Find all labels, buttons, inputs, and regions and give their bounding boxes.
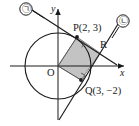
y-axis-label: y [50,3,56,14]
line-1-badge-label: ㉠ [22,4,31,14]
callout-leader-line-1 [33,11,44,18]
origin-label: O [47,67,55,78]
figure-canvas: ㉠ ㉡ y x O P(2, 3) Q(3, −2) R [0,0,139,126]
line-1-badge: ㉠ [20,3,32,15]
point-label-p: P(2, 3) [73,22,102,34]
point-dot-q [79,78,83,82]
y-axis-arrowhead [55,9,61,15]
shaded-quadrilateral-OPRQ [58,37,100,80]
point-label-r: R [100,39,107,50]
x-axis-label: x [119,67,125,78]
point-dot-p [75,35,79,39]
line-2-badge-label: ㉡ [119,16,128,26]
line-2-badge: ㉡ [117,15,129,27]
geometry-figure: ㉠ ㉡ y x O P(2, 3) Q(3, −2) R [0,0,139,126]
point-label-q: Q(3, −2) [85,85,122,97]
